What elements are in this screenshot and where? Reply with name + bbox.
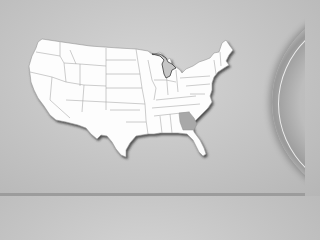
bottom-edge: [0, 193, 305, 196]
us-map: [0, 0, 305, 196]
map-scene: [0, 0, 305, 196]
us-outline: [29, 39, 233, 157]
